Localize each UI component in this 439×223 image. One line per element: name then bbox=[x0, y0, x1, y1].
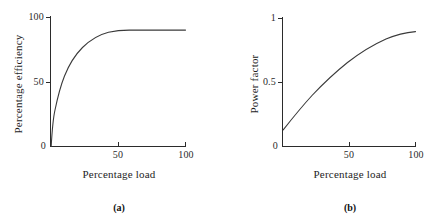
chart-b-ylabel-0point5: 0.5 bbox=[263, 77, 276, 87]
chart-a-xlabel-100: 100 bbox=[178, 150, 194, 160]
chart-a-curve bbox=[51, 30, 185, 146]
figure-pair: 100 50 0 50 100 Percentage load Percenta… bbox=[0, 0, 439, 223]
chart-b-caption: (b) bbox=[344, 202, 356, 213]
chart-b-xlabel-50: 50 bbox=[344, 150, 354, 160]
chart-a-xlabel-50: 50 bbox=[113, 150, 123, 160]
chart-panel-a: 100 50 0 50 100 Percentage load Percenta… bbox=[0, 0, 219, 223]
chart-b-y-axis-title: Power factor bbox=[248, 55, 260, 114]
chart-a-ylabel-50: 50 bbox=[34, 77, 44, 87]
chart-b-xlabel-100: 100 bbox=[408, 150, 424, 160]
chart-a-canvas bbox=[0, 0, 219, 223]
chart-a-x-axis-title: Percentage load bbox=[83, 168, 156, 180]
chart-a-y-axis-title: Percentage efficiency bbox=[12, 35, 24, 134]
chart-b-x-axis-title: Percentage load bbox=[314, 168, 387, 180]
chart-b-curve bbox=[283, 32, 415, 130]
chart-a-caption: (a) bbox=[113, 202, 125, 213]
chart-b-ylabel-0: 0 bbox=[273, 141, 278, 151]
chart-a-ylabel-0: 0 bbox=[41, 141, 46, 151]
chart-a-ylabel-100: 100 bbox=[28, 12, 44, 22]
chart-b-ylabel-1: 1 bbox=[271, 13, 276, 23]
chart-panel-b: 1 0.5 0 50 100 Percentage load Power fac… bbox=[219, 0, 438, 223]
